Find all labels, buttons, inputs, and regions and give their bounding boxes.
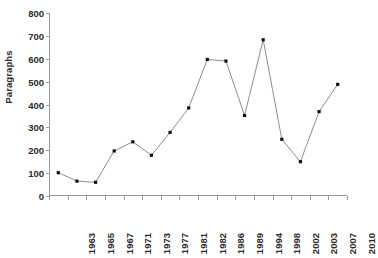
- y-tick-label: 0: [18, 191, 44, 202]
- x-tick-label: 2003: [328, 233, 340, 258]
- y-tick-label: 700: [18, 30, 44, 41]
- data-point-marker: [94, 181, 97, 184]
- y-tick-mark: [46, 13, 49, 14]
- data-point-marker: [280, 138, 283, 141]
- y-tick-label: 600: [18, 53, 44, 64]
- y-tick-label: 100: [18, 168, 44, 179]
- x-tick-label: 1977: [179, 233, 191, 258]
- x-tick-label: 2002: [310, 233, 322, 258]
- x-tick-label: 1965: [105, 233, 117, 258]
- y-axis-tick-labels: 0100200300400500600700800: [18, 0, 44, 200]
- x-tick-label: 1973: [161, 233, 173, 258]
- data-point-marker: [299, 160, 302, 163]
- data-point-marker: [187, 106, 190, 109]
- data-point-marker: [150, 154, 153, 157]
- y-axis-title: Paragraphs: [2, 37, 16, 117]
- y-tick-mark: [46, 127, 49, 128]
- x-tick-label: 2007: [347, 233, 359, 258]
- y-tick-mark: [46, 82, 49, 83]
- data-point-marker: [75, 180, 78, 183]
- x-tick-label: 1998: [291, 233, 303, 258]
- data-point-marker: [317, 110, 320, 113]
- x-tick-label: 1971: [142, 233, 154, 258]
- y-tick-label: 400: [18, 99, 44, 110]
- series-paragraphs: [49, 13, 347, 196]
- x-tick-label: 1967: [124, 233, 136, 258]
- data-point-marker: [113, 149, 116, 152]
- data-point-marker: [57, 171, 60, 174]
- y-tick-label: 200: [18, 145, 44, 156]
- series-line: [58, 40, 337, 183]
- x-tick-label: 1981: [198, 233, 210, 258]
- data-point-marker: [168, 131, 171, 134]
- data-point-marker: [243, 114, 246, 117]
- x-tick-label: 1994: [273, 233, 285, 258]
- x-tick-mark: [347, 196, 348, 200]
- x-tick-label: 1986: [235, 233, 247, 258]
- y-tick-label: 800: [18, 8, 44, 19]
- y-tick-label: 300: [18, 122, 44, 133]
- data-point-marker: [131, 140, 134, 143]
- x-tick-label: 2010: [366, 233, 378, 258]
- data-point-marker: [224, 59, 227, 62]
- x-tick-label: 1982: [217, 233, 229, 258]
- data-point-marker: [206, 58, 209, 61]
- plot-area: [49, 13, 347, 196]
- x-tick-label: 1989: [254, 233, 266, 258]
- data-point-marker: [262, 38, 265, 41]
- y-tick-mark: [46, 150, 49, 151]
- y-tick-label: 500: [18, 76, 44, 87]
- x-axis-tick-labels: 1963196519671971197319771981198219861989…: [49, 199, 347, 234]
- x-tick-label: 1963: [86, 233, 98, 258]
- y-tick-mark: [46, 36, 49, 37]
- y-tick-mark: [46, 105, 49, 106]
- y-tick-mark: [46, 59, 49, 60]
- data-point-marker: [336, 83, 339, 86]
- y-tick-mark: [46, 173, 49, 174]
